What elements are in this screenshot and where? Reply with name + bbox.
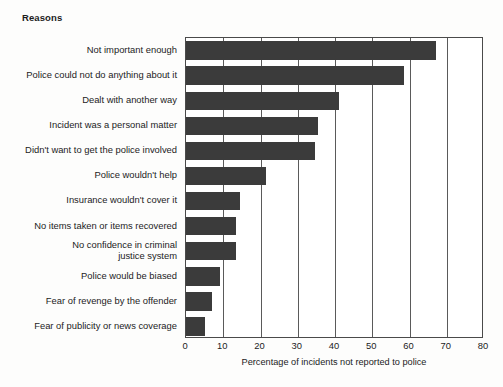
bar-row [186, 163, 482, 188]
bar [186, 217, 236, 235]
category-label: Fear of revenge by the offender [0, 295, 181, 306]
bar [186, 167, 266, 185]
x-tick-label: 60 [403, 340, 413, 351]
x-tick-label: 80 [478, 340, 488, 351]
bar [186, 242, 236, 260]
category-label: Police could not do anything about it [0, 69, 181, 80]
bar [186, 292, 212, 310]
category-label: Insurance wouldn't cover it [0, 194, 181, 205]
category-label: Police wouldn't help [0, 169, 181, 180]
bar [186, 192, 240, 210]
category-label: Didn't want to get the police involved [0, 144, 181, 155]
bar-row [186, 88, 482, 113]
bar-row [186, 138, 482, 163]
x-tick-label: 30 [292, 340, 302, 351]
category-label: No confidence in criminal justice system [0, 239, 181, 261]
bar [186, 142, 315, 160]
bar-series [186, 38, 482, 337]
bar-row [186, 113, 482, 138]
bar-row [186, 189, 482, 214]
plot-area [185, 37, 483, 338]
category-label: Not important enough [0, 44, 181, 55]
x-tick-label: 10 [217, 340, 227, 351]
x-tick-label: 20 [254, 340, 264, 351]
category-label: Fear of publicity or news coverage [0, 320, 181, 331]
bar [186, 41, 436, 59]
bar [186, 267, 220, 285]
bar-row [186, 38, 482, 63]
bar-row [186, 214, 482, 239]
x-tick-label: 50 [366, 340, 376, 351]
x-axis-title: Percentage of incidents not reported to … [185, 357, 483, 367]
bar [186, 92, 339, 110]
category-axis-labels: Not important enoughPolice could not do … [0, 37, 181, 338]
x-axis-tick-labels: 01020304050607080 [185, 340, 483, 354]
x-tick-label: 70 [441, 340, 451, 351]
bar-row [186, 239, 482, 264]
x-tick-label: 0 [182, 340, 187, 351]
category-label: No items taken or items recovered [0, 220, 181, 231]
chart-title: Reasons [22, 12, 62, 23]
bar-row [186, 264, 482, 289]
bar [186, 117, 318, 135]
category-label: Police would be biased [0, 270, 181, 281]
category-label: Dealt with another way [0, 94, 181, 105]
bar [186, 66, 404, 84]
category-label: Incident was a personal matter [0, 119, 181, 130]
bar [186, 317, 205, 335]
bar-row [186, 63, 482, 88]
x-tick-label: 40 [329, 340, 339, 351]
bar-row [186, 314, 482, 339]
bar-row [186, 289, 482, 314]
